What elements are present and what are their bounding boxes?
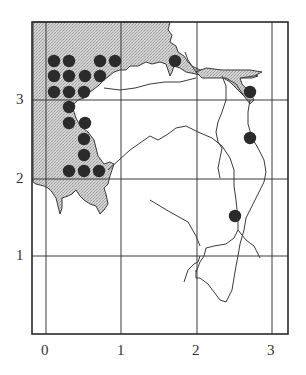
y-tick-3: 3	[16, 91, 24, 108]
occurrence-dot	[78, 133, 90, 145]
occurrence-dot	[79, 117, 91, 129]
occurrence-dot	[78, 149, 90, 161]
x-tick-2: 2	[192, 342, 200, 359]
occurrence-dot	[229, 210, 241, 222]
x-tick-1: 1	[117, 342, 125, 359]
x-tick-0: 0	[41, 342, 49, 359]
occurrence-dot	[169, 55, 181, 67]
distribution-map	[0, 0, 306, 375]
occurrence-dot	[48, 86, 60, 98]
occurrence-dot	[244, 132, 256, 144]
occurrence-dot	[48, 55, 60, 67]
occurrence-dot	[63, 165, 75, 177]
occurrence-dot	[94, 55, 106, 67]
occurrence-dot	[93, 165, 105, 177]
occurrence-dot	[244, 86, 256, 98]
estuary	[196, 68, 262, 104]
y-tick-1: 1	[16, 247, 24, 264]
occurrence-dot	[79, 70, 91, 82]
occurrence-dot	[63, 101, 75, 113]
occurrence-dot	[63, 55, 75, 67]
occurrence-dot	[78, 165, 90, 177]
occurrence-dot	[78, 86, 90, 98]
occurrence-dot	[94, 70, 106, 82]
occurrence-dot	[63, 86, 75, 98]
x-tick-3: 3	[267, 342, 275, 359]
occurrence-dot	[109, 55, 121, 67]
occurrence-dot	[63, 70, 75, 82]
occurrence-dot	[63, 117, 75, 129]
y-tick-2: 2	[16, 170, 24, 187]
occurrence-dot	[48, 70, 60, 82]
